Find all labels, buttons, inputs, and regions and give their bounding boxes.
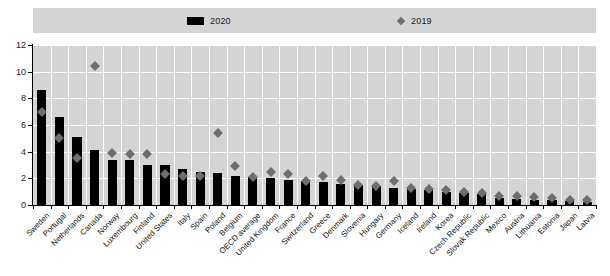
gridline-vertical [209,45,210,205]
y-tick-label: 8 [0,93,26,103]
legend-label-2019: 2019 [411,16,432,26]
gridline-vertical [350,45,351,205]
y-tick-label: 2 [0,173,26,183]
y-tick-label: 4 [0,147,26,157]
gridline-vertical [86,45,87,205]
gridline-vertical [438,45,439,205]
gridline-vertical [490,45,491,205]
gridline-vertical [543,45,544,205]
chart-legend: 2020 2019 [33,8,596,33]
gridline-vertical [332,45,333,205]
gridline-vertical [402,45,403,205]
bar-swatch-icon [187,17,204,25]
gridline-vertical [121,45,122,205]
gridline-vertical [51,45,52,205]
legend-item-2020: 2020 [187,8,231,33]
marker-2019 [266,167,276,177]
legend-label-2020: 2020 [210,16,231,26]
marker-2019 [230,161,240,171]
gridline-vertical [244,45,245,205]
gridline-vertical [103,45,104,205]
gridline-vertical [262,45,263,205]
gridline-vertical [561,45,562,205]
y-tick-label: 6 [0,120,26,130]
y-tick-label: 12 [0,40,26,50]
gridline-vertical [420,45,421,205]
marker-2019 [90,61,100,71]
y-tick-label: 10 [0,67,26,77]
gridline-vertical [139,45,140,205]
gridline-vertical [156,45,157,205]
legend-item-2019: 2019 [393,8,432,33]
chart-container: 2020 2019 024681012 SwedenPortugalNether… [0,0,610,276]
gridline-vertical [191,45,192,205]
gridline-vertical [68,45,69,205]
gridline-vertical [385,45,386,205]
gridline-vertical [455,45,456,205]
gridline-vertical [279,45,280,205]
gridline-vertical [367,45,368,205]
gridline-vertical [174,45,175,205]
x-tick-mark [33,206,34,209]
y-tick-mark [28,98,33,99]
y-tick-mark [28,45,33,46]
marker-2019 [107,148,117,158]
gridline-vertical [227,45,228,205]
y-tick-label: 0 [0,200,26,210]
y-tick-mark [28,125,33,126]
y-tick-mark [28,178,33,179]
y-tick-mark [28,72,33,73]
marker-2019 [213,128,223,138]
diamond-swatch-icon [397,16,405,24]
gridline-vertical [578,45,579,205]
y-tick-mark [28,152,33,153]
gridline-vertical [473,45,474,205]
